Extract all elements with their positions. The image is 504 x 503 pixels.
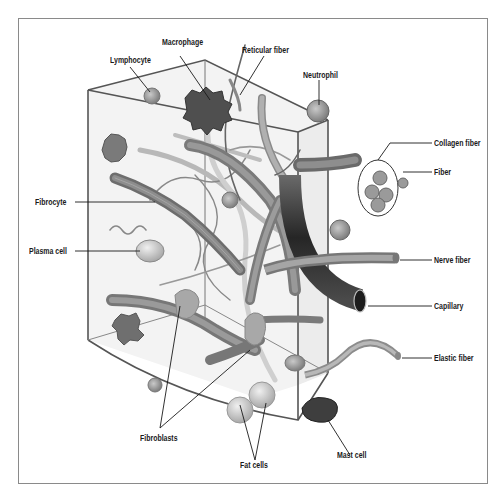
label-fibroblasts: Fibroblasts (140, 433, 178, 443)
fat-cell-2 (249, 382, 275, 408)
label-fiber: Fiber (434, 167, 451, 177)
label-collagen-fiber: Collagen fiber (434, 138, 480, 148)
fat-cell-1 (227, 397, 253, 423)
label-lymphocyte: Lymphocyte (110, 55, 151, 65)
lymphocyte-cell (144, 88, 160, 104)
label-fibrocyte: Fibrocyte (35, 197, 66, 207)
collagen-fiber-cross-section (358, 160, 408, 216)
connective-tissue-diagram (0, 0, 504, 503)
label-macrophage: Macrophage (162, 37, 203, 47)
neutrophil-cell (307, 100, 329, 122)
label-nerve-fiber: Nerve fiber (434, 255, 470, 265)
label-reticular-fiber: Reticular fiber (242, 45, 289, 55)
label-capillary: Capillary (434, 301, 463, 311)
plasma-cell (136, 240, 164, 262)
label-elastic-fiber: Elastic fiber (434, 353, 474, 363)
label-mast-cell: Mast cell (337, 450, 366, 460)
mast-cell (302, 397, 338, 422)
label-plasma-cell: Plasma cell (29, 246, 67, 256)
label-neutrophil: Neutrophil (303, 70, 338, 80)
label-fat-cells: Fat cells (240, 460, 268, 470)
